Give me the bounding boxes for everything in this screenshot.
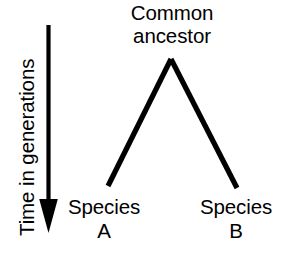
species-a-line-1: Species (58, 196, 150, 217)
species-b-line-1: Species (190, 196, 282, 217)
species-a-label: Species A (58, 196, 150, 241)
branch-to-species-a (108, 59, 171, 186)
common-ancestor-line-1: Common (108, 2, 236, 23)
branch-to-species-b (171, 59, 237, 188)
species-a-line-2: A (58, 220, 150, 241)
species-b-line-2: B (190, 220, 282, 241)
common-ancestor-line-2: ancestor (108, 25, 236, 46)
phylogenetic-tree-diagram: Time in generations Common ancestor Spec… (0, 0, 292, 261)
species-b-label: Species B (190, 196, 282, 241)
common-ancestor-label: Common ancestor (108, 2, 236, 46)
